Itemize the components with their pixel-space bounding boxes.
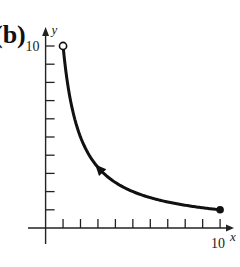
y-tick-label: 10 bbox=[26, 39, 40, 54]
axes bbox=[28, 27, 234, 244]
open-circle-marker bbox=[59, 42, 66, 49]
ticks bbox=[46, 46, 221, 228]
y-axis-arrow-icon bbox=[42, 27, 49, 36]
x-axis-label: x bbox=[229, 229, 236, 244]
axis-labels: yx1010 bbox=[26, 22, 237, 251]
filled-circle-marker bbox=[216, 206, 224, 214]
x-tick-label: 10 bbox=[211, 236, 225, 251]
markers bbox=[59, 42, 223, 213]
y-axis-label: y bbox=[50, 22, 58, 37]
curve-line bbox=[63, 46, 220, 210]
chart: yx1010 bbox=[0, 0, 240, 267]
